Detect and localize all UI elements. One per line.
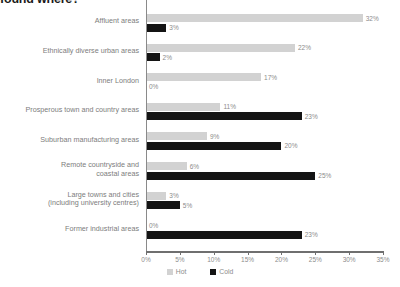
x-axis-tick-label: 20% [275,256,288,263]
bar-hot [146,162,187,170]
bar-hot [146,14,363,22]
x-axis-tick-label: 30% [343,256,356,263]
bar-value-label: 20% [284,142,297,150]
legend-swatch-hot-icon [167,269,173,275]
bar-value-label: 5% [183,202,192,210]
bar-value-label: 9% [210,133,219,141]
x-axis-tick [248,251,249,255]
bar-cold [146,201,180,209]
bar-hot [146,73,261,81]
x-axis-tick-label: 35% [376,256,389,263]
bar-value-label: 17% [264,74,277,82]
y-axis-line [146,0,147,252]
legend-swatch-cold-icon [210,269,216,275]
category-label: Inner London [0,77,139,86]
bar-hot [146,44,295,52]
bar-cold [146,112,302,120]
bar-hot [146,192,166,200]
bar-value-label: 0% [149,222,158,230]
bar-value-label: 6% [190,163,199,171]
bar-value-label: 23% [305,113,318,121]
chart-container: Affluent areasEthnically diverse urban a… [0,8,400,253]
x-axis-tick-label: 25% [309,256,322,263]
bar-value-label: 23% [305,231,318,239]
x-axis-tick-label: 5% [175,256,184,263]
x-axis-tick [146,251,147,255]
bar-cold [146,53,160,61]
category-label: Suburban manufacturing areas [0,136,139,145]
x-axis-tick [383,251,384,255]
category-label: Remote countryside and coastal areas [0,161,139,178]
category-label: Prosperous town and country areas [0,106,139,115]
category-labels-column: Affluent areasEthnically diverse urban a… [0,8,143,251]
legend-label-hot: Hot [176,268,187,275]
page-title: found where? [0,0,150,6]
x-axis-tick [214,251,215,255]
bar-value-label: 0% [149,83,158,91]
x-axis-tick [281,251,282,255]
plot-area: 32%3%22%2%17%0%11%23%9%20%6%25%3%5%0%23% [146,8,383,251]
x-axis-tick-label: 10% [207,256,220,263]
x-axis-tick-label: 15% [241,256,254,263]
bar-value-label: 32% [366,15,379,23]
x-axis-tick [349,251,350,255]
chart-page: found where? Affluent areasEthnically di… [0,0,400,287]
legend-item-hot: Hot [167,268,187,275]
bar-cold [146,172,315,180]
bar-value-label: 11% [223,103,236,111]
chart-legend: Hot Cold [0,268,400,275]
x-axis-tick [180,251,181,255]
bar-cold [146,231,302,239]
legend-label-cold: Cold [219,268,233,275]
bar-value-label: 3% [169,192,178,200]
bar-value-label: 2% [163,54,172,62]
x-axis-line [146,251,383,253]
bar-cold [146,24,166,32]
bar-value-label: 25% [318,172,331,180]
category-label: Ethnically diverse urban areas [0,47,139,56]
bar-hot [146,103,220,111]
x-axis-tick [315,251,316,255]
bar-value-label: 22% [298,44,311,52]
category-label: Large towns and cities (including univer… [0,191,139,208]
category-label: Former industrial areas [0,225,139,234]
x-axis-tick-label: 0% [141,256,150,263]
bar-hot [146,132,207,140]
legend-item-cold: Cold [210,268,233,275]
category-label: Affluent areas [0,17,139,26]
bar-cold [146,142,281,150]
bar-value-label: 3% [169,24,178,32]
